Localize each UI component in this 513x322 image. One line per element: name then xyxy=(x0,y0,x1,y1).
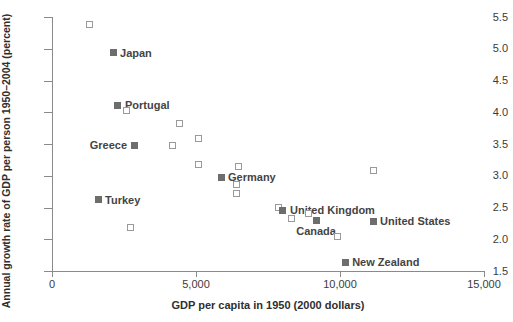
data-point xyxy=(195,135,202,142)
y-tick-mark xyxy=(44,271,52,272)
point-label-new-zealand: New Zealand xyxy=(352,257,419,268)
data-point-japan xyxy=(110,49,117,56)
data-point xyxy=(123,107,130,114)
y-tick-mark xyxy=(44,81,52,82)
x-tick-label: 5,000 xyxy=(166,279,226,290)
x-tick-label: 15,000 xyxy=(454,279,513,290)
x-tick-mark xyxy=(196,271,197,277)
data-point-new-zealand xyxy=(342,259,349,266)
point-label-japan: Japan xyxy=(120,47,152,58)
x-tick-label: 10,000 xyxy=(310,279,370,290)
point-label-turkey: Turkey xyxy=(105,194,140,205)
data-point xyxy=(169,142,176,149)
x-tick-mark xyxy=(52,271,53,277)
data-point-turkey xyxy=(95,196,102,203)
point-label-united-states: United States xyxy=(380,216,450,227)
data-point-united-states xyxy=(370,218,377,225)
x-axis-title: GDP per capita in 1950 (2000 dollars) xyxy=(52,299,484,311)
data-point-greece xyxy=(131,142,138,149)
y-tick-mark xyxy=(44,49,52,50)
y-tick-mark xyxy=(44,17,52,18)
data-point xyxy=(86,21,93,28)
y-tick-mark xyxy=(44,239,52,240)
data-point-united-kingdom xyxy=(279,207,286,214)
y-tick-mark xyxy=(44,208,52,209)
point-label-united-kingdom: United Kingdom xyxy=(290,205,375,216)
y-axis-title: Annual growth rate of GDP per person 195… xyxy=(0,0,14,322)
x-tick-mark xyxy=(340,271,341,277)
y-tick-mark xyxy=(44,144,52,145)
data-point xyxy=(195,161,202,168)
data-point-canada xyxy=(313,217,320,224)
point-label-canada: Canada xyxy=(296,226,336,237)
y-tick-mark xyxy=(44,112,52,113)
data-point xyxy=(233,181,240,188)
data-point xyxy=(176,120,183,127)
point-label-portugal: Portugal xyxy=(125,100,170,111)
x-tick-label: 0 xyxy=(22,279,82,290)
x-tick-mark xyxy=(484,271,485,277)
data-point xyxy=(127,224,134,231)
x-axis-line xyxy=(52,271,484,272)
data-point-germany xyxy=(218,174,225,181)
data-point xyxy=(235,163,242,170)
data-point xyxy=(334,233,341,240)
data-point xyxy=(370,167,377,174)
data-point-portugal xyxy=(114,102,121,109)
data-point xyxy=(288,215,295,222)
y-tick-mark xyxy=(44,176,52,177)
point-label-greece: Greece xyxy=(90,140,127,151)
data-point xyxy=(233,190,240,197)
data-point xyxy=(305,210,312,217)
